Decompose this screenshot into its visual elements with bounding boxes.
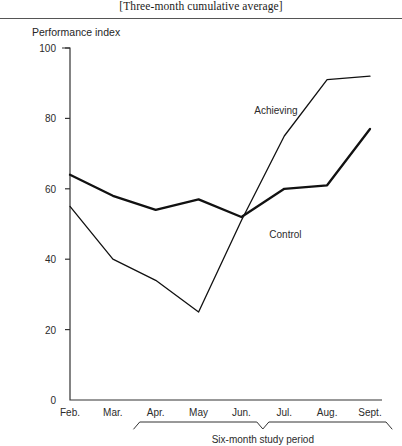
- line-chart-plot: [0, 0, 402, 446]
- y-tick-label-20: 20: [28, 324, 56, 335]
- y-tick-label-100: 100: [28, 43, 56, 54]
- brace-path: [134, 422, 392, 429]
- series-line-achieving: [70, 76, 370, 312]
- study-period-caption: Six-month study period: [212, 434, 314, 445]
- figure-container: [Three-month cumulative average] Perform…: [0, 0, 402, 446]
- series-line-control: [70, 129, 370, 217]
- x-tick-label-apr: Apr.: [133, 407, 179, 418]
- y-tick-label-40: 40: [28, 254, 56, 265]
- study-period-brace: [134, 422, 392, 429]
- x-tick-label-jul: Jul.: [261, 407, 307, 418]
- series-label-control: Control: [269, 229, 301, 240]
- y-tick-label-80: 80: [28, 113, 56, 124]
- series-layer: [70, 76, 370, 312]
- x-tick-label-jun: Jun.: [218, 407, 264, 418]
- x-tick-label-may: May: [176, 407, 222, 418]
- x-tick-label-sept: Sept.: [347, 407, 393, 418]
- chart-axes: [62, 48, 382, 400]
- x-tick-label-feb: Feb.: [47, 407, 93, 418]
- y-tick-label-60: 60: [28, 183, 56, 194]
- axis-line: [62, 48, 382, 400]
- x-tick-label-mar: Mar.: [90, 407, 136, 418]
- series-label-achieving: Achieving: [254, 105, 297, 116]
- y-tick-label-0: 0: [28, 395, 56, 406]
- y-tick-marks: [65, 48, 70, 330]
- x-tick-label-aug: Aug.: [304, 407, 350, 418]
